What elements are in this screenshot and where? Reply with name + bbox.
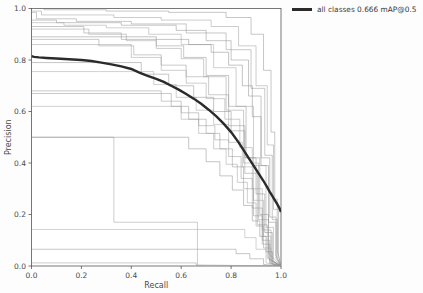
- x-tick-label: 0.8: [225, 271, 237, 280]
- x-tick-label: 0.2: [75, 271, 87, 280]
- legend-label-all-classes: all classes 0.666 mAP@0.5: [317, 5, 416, 14]
- x-tick-label: 1.0: [275, 271, 287, 280]
- y-tick-label: 0.8: [14, 56, 26, 65]
- axes-group: [29, 9, 282, 270]
- x-axis-title: Recall: [144, 281, 168, 290]
- x-tick-label: 0.0: [26, 271, 38, 280]
- legend-swatch-all-classes: [292, 8, 312, 11]
- y-tick-label: 0.4: [14, 159, 26, 168]
- y-axis-title: Precision: [4, 119, 13, 155]
- x-tick-label: 0.6: [175, 271, 187, 280]
- plot-canvas: 0.00.20.40.60.81.00.00.20.40.60.81.0Reca…: [0, 0, 423, 293]
- precision-recall-figure: 0.00.20.40.60.81.00.00.20.40.60.81.0Reca…: [0, 0, 423, 293]
- x-tick-label: 0.4: [125, 271, 137, 280]
- legend: all classes 0.666 mAP@0.5: [292, 5, 416, 14]
- y-tick-label: 0.6: [14, 107, 26, 116]
- y-tick-label: 0.0: [14, 262, 26, 271]
- y-tick-label: 1.0: [14, 4, 26, 13]
- y-tick-label: 0.2: [14, 210, 26, 219]
